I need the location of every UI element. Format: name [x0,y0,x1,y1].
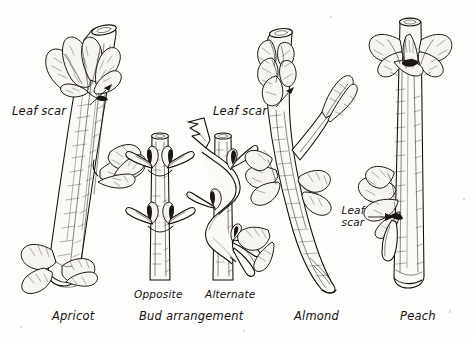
almond-bud-cluster-midleft [245,150,280,205]
peach-leaf-scar-label: Leaf scar [336,204,370,228]
almond-branch-right [292,76,357,160]
specimen-opposite [126,133,195,280]
peach-leaf-scar-line-2: scar [342,216,365,228]
specimen-alternate [187,118,260,280]
apricot-bud-cluster-middle [93,145,145,189]
label-apricot: Apricot [52,309,94,323]
label-bud-arrangement: Bud arrangement [139,309,243,323]
almond-leaf-scar-label: Leaf scar [213,104,267,118]
label-almond: Almond [294,309,339,323]
label-opposite: Opposite [134,288,183,300]
specimen-peach [358,18,451,288]
label-peach: Peach [400,309,436,323]
peach-bud-rosette [369,34,452,77]
alternate-node-2 [187,189,221,210]
label-alternate: Alternate [205,288,255,300]
specimen-apricot [21,23,145,293]
botanical-illustration-figure: Leaf scar Leaf scar Leaf scar Opposite A… [0,0,473,338]
apricot-leaf-scar-label: Leaf scar [12,104,66,118]
peach-leaf-scar-line-1: Leaf [341,204,364,216]
